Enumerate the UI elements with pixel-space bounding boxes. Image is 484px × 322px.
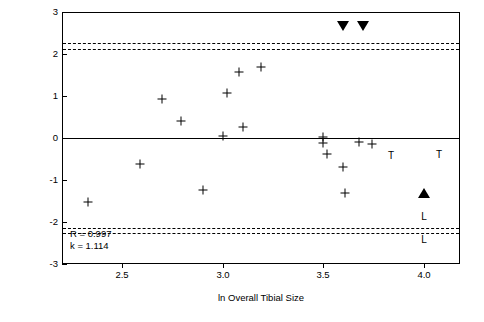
x-tick-label: 2.5 xyxy=(107,269,137,280)
data-point-triangle-down xyxy=(337,21,349,31)
x-tick-label: 4.0 xyxy=(409,269,439,280)
data-point-triangle-down xyxy=(357,21,369,31)
data-point-label-L: L xyxy=(421,235,427,245)
y-tick-label: -1 xyxy=(36,175,58,185)
x-axis-title: ln Overall Tibial Size xyxy=(62,292,460,303)
y-tick-label: 2 xyxy=(36,49,58,59)
data-point-cross xyxy=(84,197,93,206)
statistics-annotation: R = 0.997 k = 1.114 xyxy=(70,228,111,252)
data-point-label-L: L xyxy=(421,212,427,222)
r-value-label: R = 0.997 xyxy=(70,228,111,240)
data-point-cross xyxy=(323,150,332,159)
y-tick-mark xyxy=(62,222,67,223)
y-tick-mark xyxy=(62,54,67,55)
data-point-cross xyxy=(355,138,364,147)
k-value-label: k = 1.114 xyxy=(70,240,111,252)
y-tick-label: 3 xyxy=(36,7,58,17)
data-point-cross xyxy=(319,139,328,148)
y-tick-mark xyxy=(62,96,67,97)
data-point-cross xyxy=(136,160,145,169)
data-point-cross xyxy=(199,186,208,195)
data-point-cross xyxy=(158,94,167,103)
y-tick-label: 1 xyxy=(36,91,58,101)
data-point-label-T: T xyxy=(388,151,394,161)
data-point-cross xyxy=(239,122,248,131)
y-axis-tick-labels: 3 2 1 0 -1 -2 -3 xyxy=(32,12,58,264)
scatter-chart: RD Midshaft AP Diameter ln Overall Tibia… xyxy=(0,0,484,322)
data-point-cross xyxy=(235,67,244,76)
data-point-cross xyxy=(341,189,350,198)
y-tick-mark xyxy=(62,180,67,181)
lower-limit-inner-line xyxy=(63,228,459,229)
data-point-cross xyxy=(177,117,186,126)
upper-limit-inner-line xyxy=(63,49,459,50)
x-tick-label: 3.0 xyxy=(208,269,238,280)
y-tick-label: -3 xyxy=(36,259,58,269)
y-tick-label: -2 xyxy=(36,217,58,227)
data-point-cross xyxy=(368,139,377,148)
x-tick-label: 3.5 xyxy=(308,269,338,280)
data-point-label-T: T xyxy=(436,150,442,160)
y-tick-mark xyxy=(62,12,67,13)
mean-reference-line xyxy=(63,138,459,139)
x-axis-tick-labels: 2.5 3.0 3.5 4.0 xyxy=(62,266,460,284)
upper-limit-outer-line xyxy=(63,43,459,44)
data-point-cross xyxy=(339,163,348,172)
y-tick-label: 0 xyxy=(36,133,58,143)
data-point-cross xyxy=(257,62,266,71)
data-point-cross xyxy=(219,131,228,140)
data-point-cross xyxy=(223,88,232,97)
data-point-triangle-up xyxy=(418,188,430,198)
y-tick-mark xyxy=(62,264,67,265)
lower-limit-outer-line xyxy=(63,233,459,234)
